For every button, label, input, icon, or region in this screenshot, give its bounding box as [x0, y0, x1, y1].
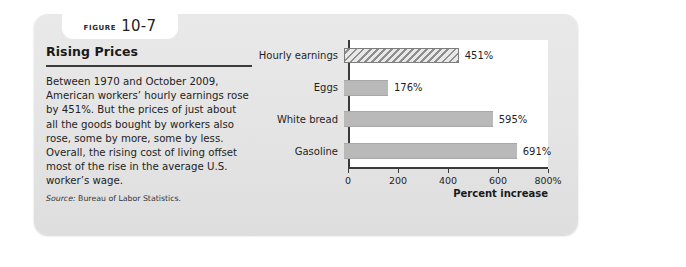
bar-row: Eggs176% [252, 72, 570, 104]
x-axis-title: Percent increase [348, 188, 548, 199]
x-tick-label: 800% [534, 175, 561, 186]
x-tick-mark [348, 169, 349, 173]
x-tick-label: 0 [345, 175, 351, 186]
figure-number: 10-7 [121, 17, 156, 35]
bar-category-label: White bread [252, 114, 344, 125]
bar [344, 48, 459, 63]
figure-label: FIGURE [84, 21, 117, 32]
bar-value-label: 691% [523, 146, 552, 157]
x-tick-mark [398, 169, 399, 173]
title-divider [46, 65, 252, 67]
bar-track: 691% [344, 135, 570, 167]
bar [344, 111, 493, 127]
bar-row: Gasoline691% [252, 135, 570, 167]
x-tick-mark [498, 169, 499, 173]
figure-number-tab: FIGURE 10-7 [62, 13, 178, 39]
bar-category-label: Gasoline [252, 146, 344, 157]
text-column: Rising Prices Between 1970 and October 2… [44, 44, 254, 203]
bar-row: Hourly earnings451% [252, 40, 570, 72]
x-tick-label: 600 [489, 175, 507, 186]
bar-value-label: 451% [465, 50, 494, 61]
page-title: Rising Prices [46, 44, 254, 59]
x-tick-mark [448, 169, 449, 173]
bar-value-label: 595% [499, 114, 528, 125]
bar-track: 451% [344, 40, 570, 72]
bar-row: White bread595% [252, 104, 570, 136]
source-label: Source: [46, 194, 76, 203]
source-citation: Source: Bureau of Labor Statistics. [46, 194, 254, 203]
body-paragraph: Between 1970 and October 2009, American … [46, 75, 251, 189]
bar-chart: Hourly earnings451%Eggs176%White bread59… [252, 40, 570, 218]
figure-card: FIGURE 10-7 Rising Prices Between 1970 a… [34, 14, 578, 235]
bar-category-label: Hourly earnings [252, 50, 344, 61]
bar-track: 595% [344, 104, 570, 136]
bar [344, 143, 517, 159]
bar-category-label: Eggs [252, 82, 344, 93]
source-text: Bureau of Labor Statistics. [78, 194, 181, 203]
bar [344, 80, 388, 96]
bar-value-label: 176% [394, 82, 423, 93]
x-tick-label: 200 [389, 175, 407, 186]
bar-track: 176% [344, 72, 570, 104]
x-tick-label: 400 [439, 175, 457, 186]
x-tick-mark [548, 169, 549, 173]
